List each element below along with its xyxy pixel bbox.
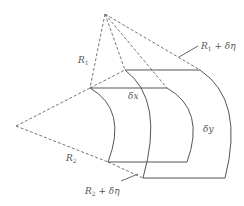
radius-r2-line	[16, 126, 108, 162]
top-apex-radii	[90, 14, 200, 88]
leader-r2-plus	[121, 174, 138, 181]
radius-r1-line	[90, 14, 105, 88]
label-r1: R1	[77, 55, 89, 66]
arc-front-left	[90, 88, 115, 162]
arc-front-right	[167, 88, 193, 162]
edge-depth-top-left	[90, 70, 125, 88]
leader-r1-plus	[179, 46, 198, 57]
label-r2: R2	[65, 153, 77, 164]
radius-r1-back-left	[105, 14, 125, 70]
left-apex-radii	[16, 88, 143, 178]
label-r2-plus-delta: R2 + δη	[84, 186, 120, 197]
radius-left-to-top	[16, 88, 90, 126]
radius-r2-plus-extension	[108, 162, 143, 178]
label-delta-x: δx	[128, 91, 139, 101]
radius-r1-plus-line	[105, 14, 200, 70]
radius-r1-front-right	[105, 14, 167, 88]
curved-element-diagram: R1 R1 + δη R2 R2 + δη δx δy	[0, 0, 244, 206]
label-r1-plus-delta: R1 + δη	[200, 41, 236, 52]
label-delta-y: δy	[203, 124, 214, 134]
